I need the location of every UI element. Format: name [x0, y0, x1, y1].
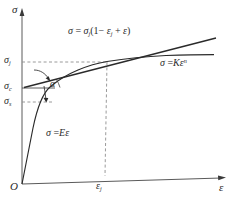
y-axis-arrowhead — [20, 8, 25, 16]
equation-linear-hardening: σ = σj(1− εj + ε) — [68, 26, 130, 37]
equation-elastic: σ =Eε — [46, 128, 69, 138]
eq-lh-open: (1− — [90, 25, 106, 36]
x-tick-epsilon-j-subscript: j — [100, 185, 102, 192]
angle-alpha-label: α — [50, 79, 55, 89]
eq-lh-plus: + — [112, 25, 123, 36]
y-tick-sigma-j-subscript: j — [9, 59, 11, 66]
eq-pl-exponent: n — [184, 57, 187, 64]
x-axis — [22, 178, 221, 184]
origin-label: O — [10, 181, 18, 192]
eq-el-equals: = — [51, 127, 59, 138]
stress-strain-diagram: σ ε O σj σc σs εj α σ = σj(1− εj + ε) σ … — [0, 0, 232, 204]
eq-el-eps: ε — [65, 127, 69, 138]
y-tick-sigma-j: σj — [4, 55, 11, 66]
y-tick-sigma-c: σc — [4, 81, 12, 92]
eq-pl-k: K — [173, 57, 180, 68]
eq-lh-close: ) — [127, 25, 130, 36]
eq-lh-equals: = — [73, 25, 84, 36]
guide-vertical-epsilon-j — [105, 62, 107, 176]
y-tick-sigma-s: σs — [4, 96, 11, 107]
x-axis-arrowhead — [218, 175, 226, 180]
x-axis-label: ε — [219, 182, 223, 193]
equation-power-law: σ =Kεn — [160, 58, 187, 68]
leader-arrow-to-line — [34, 70, 51, 82]
eq-pl-equals: = — [165, 57, 173, 68]
power-law-curve — [22, 55, 214, 184]
x-tick-epsilon-j: εj — [96, 181, 102, 192]
y-tick-sigma-c-subscript: c — [9, 85, 12, 92]
y-tick-sigma-s-subscript: s — [9, 100, 11, 107]
y-axis-label: σ — [12, 4, 17, 15]
